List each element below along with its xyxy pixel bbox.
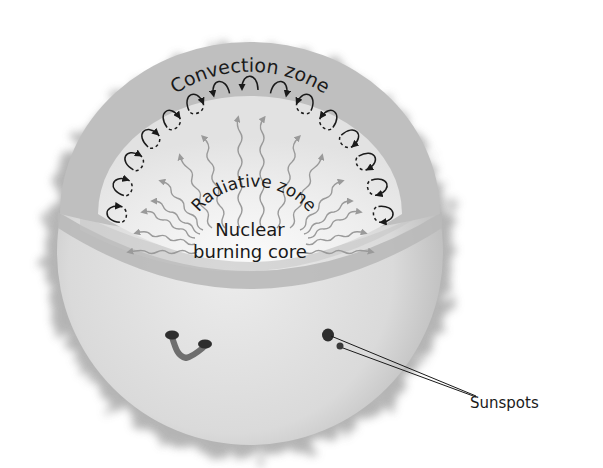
sunspots-label: Sunspots [470, 394, 539, 412]
core-label-line2: burning core [193, 241, 307, 262]
core-label-line1: Nuclear [215, 219, 285, 240]
sun-structure-diagram: Convection zone Radiative zone Nuclear b… [0, 0, 603, 468]
